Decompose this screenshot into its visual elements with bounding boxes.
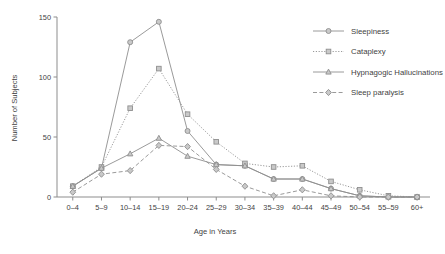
data-point-marker <box>185 144 191 150</box>
legend-label: Cataplexy <box>351 47 386 56</box>
data-point-marker <box>214 140 219 145</box>
legend-marker <box>326 29 331 34</box>
legend-label: Sleepiness <box>351 27 389 36</box>
y-tick-label: 100 <box>39 73 51 82</box>
chart-legend: SleepinessCataplexyHypnagogic Hallucinat… <box>313 27 443 98</box>
x-tick-group: 0–45–910–1415–1920–2425–2930–3435–3940–4… <box>67 197 424 212</box>
chart-container: 050100150 Number of Subjects 0–45–910–14… <box>0 0 445 254</box>
x-tick: 0–4 <box>67 197 79 212</box>
y-tick-label: 50 <box>43 133 51 142</box>
y-tick-label: 150 <box>39 13 51 22</box>
x-tick: 40–44 <box>292 197 313 212</box>
x-tick-label: 30–34 <box>235 203 256 212</box>
x-tick-label: 55–59 <box>378 203 399 212</box>
x-tick: 25–29 <box>206 197 227 212</box>
x-tick-label: 60+ <box>411 203 424 212</box>
y-axis-title: Number of Subjects <box>10 74 19 141</box>
series-sleepiness <box>70 19 419 199</box>
data-point-marker <box>127 151 132 156</box>
y-tick: 0 <box>47 193 57 202</box>
data-point-marker <box>271 193 277 199</box>
x-tick-label: 20–24 <box>177 203 198 212</box>
series-cataplexy <box>70 66 419 199</box>
x-tick: 20–24 <box>177 197 198 212</box>
x-tick-label: 15–19 <box>149 203 170 212</box>
x-tick: 10–14 <box>120 197 141 212</box>
x-tick-label: 0–4 <box>67 203 79 212</box>
y-tick-label: 0 <box>47 193 51 202</box>
x-axis: 0–45–910–1415–1920–2425–2930–3435–3940–4… <box>57 197 430 236</box>
data-point-marker <box>299 187 305 193</box>
y-tick: 50 <box>43 133 57 142</box>
data-point-marker <box>156 135 161 140</box>
x-tick: 15–19 <box>149 197 170 212</box>
data-point-marker <box>128 106 133 111</box>
x-axis-title: Age in Years <box>194 227 237 236</box>
legend-marker <box>326 89 332 95</box>
data-point-marker <box>329 179 334 184</box>
data-point-marker <box>157 66 162 71</box>
data-point-marker <box>300 164 305 169</box>
x-tick-label: 25–29 <box>206 203 227 212</box>
data-point-marker <box>242 183 248 189</box>
line-chart: 050100150 Number of Subjects 0–45–910–14… <box>0 0 445 254</box>
y-tick: 150 <box>39 13 57 22</box>
legend-item-sleep-paralysis[interactable]: Sleep paralysis <box>313 88 404 97</box>
x-tick-label: 10–14 <box>120 203 141 212</box>
x-tick-label: 45–49 <box>321 203 342 212</box>
data-point-marker <box>128 40 133 45</box>
legend-label: Sleep paralysis <box>351 88 404 97</box>
data-point-marker <box>99 171 105 177</box>
data-point-marker <box>328 193 334 199</box>
legend-label: Hypnagogic Hallucinations <box>351 68 443 77</box>
data-point-marker <box>70 189 76 195</box>
y-axis: 050100150 Number of Subjects <box>10 13 57 202</box>
legend-marker <box>326 49 331 54</box>
data-point-marker <box>185 153 190 158</box>
y-tick-group: 050100150 <box>39 13 57 202</box>
x-tick-label: 50–54 <box>349 203 370 212</box>
x-tick-label: 40–44 <box>292 203 313 212</box>
y-tick: 100 <box>39 73 57 82</box>
x-tick-label: 35–39 <box>263 203 284 212</box>
data-point-marker <box>185 112 190 117</box>
x-tick: 30–34 <box>235 197 256 212</box>
legend-item-sleepiness[interactable]: Sleepiness <box>313 27 389 36</box>
x-tick-label: 5–9 <box>95 203 107 212</box>
legend-item-cataplexy[interactable]: Cataplexy <box>313 47 386 56</box>
data-point-marker <box>357 188 362 193</box>
data-point-marker <box>271 165 276 170</box>
data-point-marker <box>185 129 190 134</box>
x-tick: 5–9 <box>95 197 107 212</box>
data-point-marker <box>156 19 161 24</box>
legend-item-hypnagogic-hallucinations[interactable]: Hypnagogic Hallucinations <box>313 68 443 77</box>
